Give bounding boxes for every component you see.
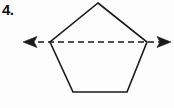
figure-canvas <box>0 0 174 108</box>
geometry-figure-container: 4. <box>0 0 174 108</box>
pentagon-shape <box>50 3 147 92</box>
left-arrowhead-icon <box>23 37 37 48</box>
